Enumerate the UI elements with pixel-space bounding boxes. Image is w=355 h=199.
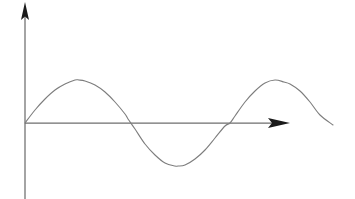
figure-root (0, 0, 355, 199)
sine-wave-plot (0, 0, 355, 199)
plot-background (0, 0, 355, 199)
